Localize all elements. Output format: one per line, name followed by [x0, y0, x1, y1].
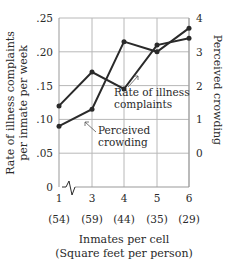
crowding-annotation-line2: crowding	[98, 136, 148, 148]
data-point	[57, 103, 62, 108]
x-sub-label: (44)	[113, 213, 135, 225]
data-point	[155, 49, 160, 54]
x-sub-label: (54)	[48, 213, 70, 225]
x-tick-label: 4	[121, 192, 128, 204]
right-tick-label: 3	[196, 46, 203, 58]
illness-annotation-line2: complaints	[114, 98, 172, 110]
data-point	[187, 36, 192, 41]
right-tick-label: 1	[196, 113, 203, 125]
x-tick-label: 3	[89, 192, 96, 204]
left-axis-ticks: 0.05.10.15.20.25	[36, 12, 53, 193]
x-tick-label: 6	[186, 192, 193, 204]
left-tick-label: .15	[36, 80, 53, 92]
arrow-icon	[85, 122, 96, 132]
left-axis-title-line1: Rate of illness complaints	[4, 31, 17, 175]
data-point	[187, 26, 192, 31]
axis-break-icon	[62, 181, 75, 195]
left-tick-label: .25	[36, 12, 53, 24]
crowding-annotation: Perceived crowding	[85, 122, 150, 148]
left-tick-label: .10	[36, 113, 53, 125]
x-axis-title: Inmates per cell	[79, 233, 170, 246]
x-sub-label: (29)	[178, 213, 200, 225]
right-axis-title: Perceived crowding	[211, 35, 224, 145]
illness-annotation: Rate of illness complaints	[114, 76, 190, 110]
data-point	[90, 70, 95, 75]
left-tick-label: 0	[46, 181, 53, 193]
x-sub-label: (35)	[146, 213, 168, 225]
x-tick-label: 1	[56, 192, 63, 204]
left-tick-label: .05	[36, 147, 53, 159]
data-point	[57, 124, 62, 129]
data-point	[90, 107, 95, 112]
right-tick-label: 2	[196, 80, 203, 92]
x-tick-label: 5	[154, 192, 161, 204]
left-axis-title-line2: per inmate per week	[17, 45, 30, 161]
data-point	[155, 43, 160, 48]
right-tick-label: 4	[196, 12, 203, 24]
x-sub-label: (59)	[81, 213, 103, 225]
data-point	[122, 39, 127, 44]
chart: 0.05.10.15.20.25 01234 1(54)3(59)4(44)5(…	[0, 0, 231, 268]
x-axis-ticks: 1(54)3(59)4(44)5(35)6(29)	[48, 192, 200, 225]
x-axis-subtitle: (Square feet per person)	[55, 247, 193, 260]
illness-annotation-line1: Rate of illness	[114, 86, 190, 98]
right-tick-label: 0	[196, 147, 203, 159]
right-axis-ticks: 01234	[196, 12, 203, 159]
left-tick-label: .20	[36, 46, 53, 58]
crowding-annotation-line1: Perceived	[98, 124, 150, 136]
